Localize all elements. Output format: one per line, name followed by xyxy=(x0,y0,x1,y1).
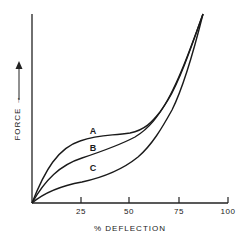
curve-label-b: B xyxy=(90,143,97,153)
curve-label-a: A xyxy=(90,126,97,136)
x-tick-label-50: 50 xyxy=(124,207,134,216)
curve-c xyxy=(32,14,203,203)
plot-area xyxy=(0,0,247,238)
y-axis-label: FORCE → xyxy=(13,95,22,140)
x-tick-label-100: 100 xyxy=(221,207,236,216)
curve-label-c: C xyxy=(90,163,97,173)
x-tick-label-75: 75 xyxy=(174,207,184,216)
chart: FORCE → A B C 25 50 75 100 % DEFLECTION xyxy=(0,0,247,238)
x-tick-label-25: 25 xyxy=(76,207,86,216)
curve-a xyxy=(32,14,203,203)
x-axis-label: % DEFLECTION xyxy=(94,224,166,233)
arrow-up-icon xyxy=(16,61,23,69)
curve-b xyxy=(32,14,203,203)
